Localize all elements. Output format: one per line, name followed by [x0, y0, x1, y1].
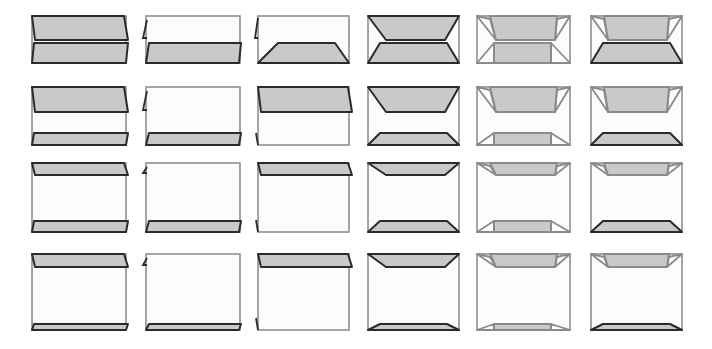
cell-r4-c1: [32, 254, 128, 330]
cell-r1-c6: [591, 16, 682, 63]
bottom-flap: [494, 324, 551, 330]
cell-r3-c3: [256, 163, 352, 232]
cell-r1-c1: [32, 16, 128, 63]
top-flap: [604, 163, 669, 175]
cell-r4-c3: [256, 254, 352, 330]
cell-r4-c5: [477, 254, 570, 330]
cell-r4-c6: [591, 254, 682, 330]
top-flap: [258, 163, 352, 175]
cell-r3-c6: [591, 163, 682, 232]
bottom-flap: [494, 133, 551, 145]
top-flap: [604, 16, 669, 40]
cell-r2-c5: [477, 87, 570, 145]
cell-r1-c2: [143, 16, 241, 63]
cell-r1-c3: [255, 16, 349, 63]
top-flap: [490, 16, 557, 40]
cell-r2-c6: [591, 87, 682, 145]
bottom-flap: [591, 324, 682, 330]
cell-r3-c1: [32, 163, 128, 232]
bottom-flap: [494, 43, 551, 63]
bottom-flap: [32, 221, 128, 232]
top-flap: [368, 163, 459, 175]
bottom-flap: [146, 133, 241, 145]
bottom-flap: [591, 133, 682, 145]
top-flap: [604, 87, 669, 112]
top-flap: [490, 163, 557, 175]
cell-r3-c4: [368, 163, 459, 232]
cell-r2-c4: [368, 87, 459, 145]
envelope-flap-diagram-grid: [0, 0, 712, 349]
bottom-flap: [146, 43, 241, 63]
bottom-flap: [146, 324, 241, 330]
cell-r4-c2: [143, 254, 241, 330]
top-flap: [32, 87, 128, 112]
cell-r2-c1: [32, 87, 128, 145]
top-flap: [490, 87, 557, 112]
top-flap: [258, 87, 352, 112]
bottom-flap: [368, 43, 459, 63]
bottom-flap: [32, 324, 128, 330]
top-flap: [32, 16, 128, 40]
top-flap: [368, 254, 459, 267]
bottom-flap: [368, 324, 459, 330]
bottom-flap: [591, 43, 682, 63]
top-flap: [604, 254, 669, 267]
top-flap: [32, 163, 128, 175]
bottom-flap: [368, 133, 459, 145]
top-flap: [490, 254, 557, 267]
bottom-flap: [591, 221, 682, 232]
bottom-flap: [32, 43, 128, 63]
bottom-flap: [32, 133, 128, 145]
cell-r1-c4: [368, 16, 459, 63]
bottom-flap: [368, 221, 459, 232]
bottom-flap: [494, 221, 551, 232]
cell-r3-c2: [143, 163, 241, 232]
top-flap: [258, 254, 352, 267]
bottom-flap: [146, 221, 241, 232]
top-flap: [32, 254, 128, 267]
cell-r2-c2: [143, 87, 241, 145]
cell-r1-c5: [477, 16, 570, 63]
envelope-body: [146, 254, 240, 330]
cell-r4-c4: [368, 254, 459, 330]
cell-r2-c3: [256, 87, 352, 145]
cell-r3-c5: [477, 163, 570, 232]
